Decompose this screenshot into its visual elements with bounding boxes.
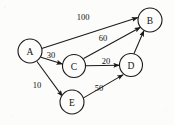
node-b: B bbox=[138, 8, 162, 32]
graph-canvas: 100 30 10 60 20 50 A B C D bbox=[0, 0, 174, 125]
edge-weight-a-e: 10 bbox=[33, 80, 42, 90]
edge-weight-c-b: 60 bbox=[99, 33, 108, 43]
node-b-label: B bbox=[147, 16, 153, 26]
node-d: D bbox=[120, 54, 143, 77]
node-c: C bbox=[63, 55, 86, 78]
edge-weight-a-b: 100 bbox=[77, 12, 90, 22]
node-d-label: D bbox=[128, 61, 135, 71]
nodes-group: A B C D E bbox=[18, 8, 162, 114]
node-e-label: E bbox=[69, 98, 75, 108]
node-a: A bbox=[18, 39, 42, 63]
node-a-label: A bbox=[27, 47, 34, 57]
edge-a-e bbox=[37, 61, 63, 96]
graph-diagram: 100 30 10 60 20 50 A B C D bbox=[0, 0, 174, 125]
edge-weight-a-c: 30 bbox=[47, 50, 56, 60]
node-c-label: C bbox=[71, 62, 77, 72]
node-e: E bbox=[60, 90, 84, 114]
edge-weight-e-d: 50 bbox=[95, 83, 104, 93]
edge-labels-group: 100 30 10 60 20 50 bbox=[33, 12, 111, 93]
edge-d-b bbox=[134, 31, 144, 54]
edge-a-b bbox=[42, 18, 138, 49]
edge-weight-c-d: 20 bbox=[102, 56, 111, 66]
